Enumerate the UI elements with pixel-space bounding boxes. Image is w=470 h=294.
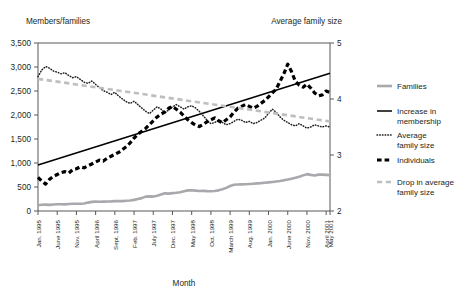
- series-line-increase-in-membership: [38, 73, 330, 165]
- left-axis-tick-label: 0: [26, 207, 31, 216]
- x-axis-tick-label: June 1995: [54, 219, 61, 248]
- right-axis-title: Average family size: [271, 17, 342, 26]
- left-axis-tick-label: 1,500: [11, 135, 32, 144]
- series-line-families: [38, 174, 330, 205]
- legend-label-families: Families: [397, 82, 427, 91]
- legend-label-average-family-size: family size: [397, 141, 435, 150]
- legend-label-average-family-size: Average: [397, 131, 427, 140]
- x-axis-tick-label: May 2001: [327, 219, 334, 247]
- chart-container: Members/familiesAverage family size05001…: [0, 0, 470, 294]
- x-axis-tick-label: June 2000: [285, 219, 292, 248]
- series-line-individuals: [38, 64, 330, 184]
- left-axis-tick-label: 500: [17, 183, 31, 192]
- x-axis-tick-label: Oct. 1998: [208, 219, 215, 246]
- right-axis-tick-label: 3: [337, 151, 342, 160]
- x-axis-tick-label: May 1998: [189, 219, 196, 247]
- left-axis-tick-label: 3,500: [11, 39, 32, 48]
- series-line-drop-in-average-family-size: [38, 79, 330, 122]
- x-axis-tick-label: Sept. 1996: [112, 219, 119, 249]
- x-axis-tick-label: Aug. 1999: [246, 219, 253, 248]
- x-axis-tick-label: Nov. 2000: [304, 219, 311, 247]
- right-axis-tick-label: 2: [337, 207, 342, 216]
- legend-label-increase-in-membership: membership: [397, 117, 442, 126]
- legend-label-drop-in-average-family-size: family size: [397, 188, 435, 197]
- x-axis-tick-label: Jan. 1995: [35, 219, 42, 247]
- left-axis-tick-label: 2,500: [11, 87, 32, 96]
- x-axis-tick-label: March 1999: [227, 219, 234, 252]
- x-axis-tick-label: Dec. 1997: [169, 219, 176, 248]
- x-axis-tick-label: July 1997: [150, 219, 157, 246]
- left-axis-tick-label: 1,000: [11, 159, 32, 168]
- right-axis-tick-label: 4: [337, 95, 342, 104]
- left-axis-title: Members/families: [26, 17, 90, 26]
- legend-label-drop-in-average-family-size: Drop in average: [397, 178, 454, 187]
- left-axis-tick-label: 2,000: [11, 111, 32, 120]
- x-axis-title: Month: [173, 279, 196, 288]
- legend-label-increase-in-membership: Increase in: [397, 107, 436, 116]
- left-axis-tick-label: 3,000: [11, 63, 32, 72]
- x-axis-tick-label: Jan. 2000: [266, 219, 273, 247]
- members-families-chart: Members/familiesAverage family size05001…: [0, 0, 470, 294]
- right-axis-tick-label: 5: [337, 39, 342, 48]
- x-axis-tick-label: Nov. 1995: [73, 219, 80, 247]
- x-axis-tick-label: Feb. 1997: [131, 219, 138, 247]
- legend-label-individuals: Individuals: [397, 156, 435, 165]
- x-axis-tick-label: April 1996: [93, 219, 100, 247]
